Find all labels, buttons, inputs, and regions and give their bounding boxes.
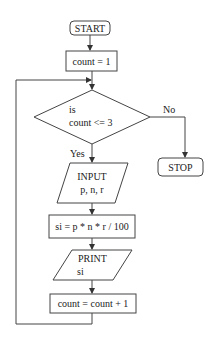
no-label: No: [163, 104, 175, 115]
decision-label-line2: count <= 3: [69, 117, 113, 128]
decision-label-line1: is: [69, 104, 76, 115]
print-label-line2: si: [77, 266, 84, 277]
init-label: count = 1: [73, 56, 111, 67]
arrow-no-to-stop: [150, 117, 185, 157]
yes-label: Yes: [70, 148, 85, 159]
compute-label: si = p * n * r / 100: [55, 221, 128, 232]
input-label-line1: INPUT: [77, 171, 106, 182]
input-label-line2: p, n, r: [80, 184, 104, 195]
print-label-line1: PRINT: [78, 253, 107, 264]
flowchart: START count = 1 is count <= 3 No STOP Ye…: [0, 0, 215, 346]
stop-label: STOP: [168, 162, 193, 173]
input-parallelogram: [57, 163, 128, 203]
start-label: START: [75, 23, 105, 34]
increment-label: count = count + 1: [58, 298, 129, 309]
